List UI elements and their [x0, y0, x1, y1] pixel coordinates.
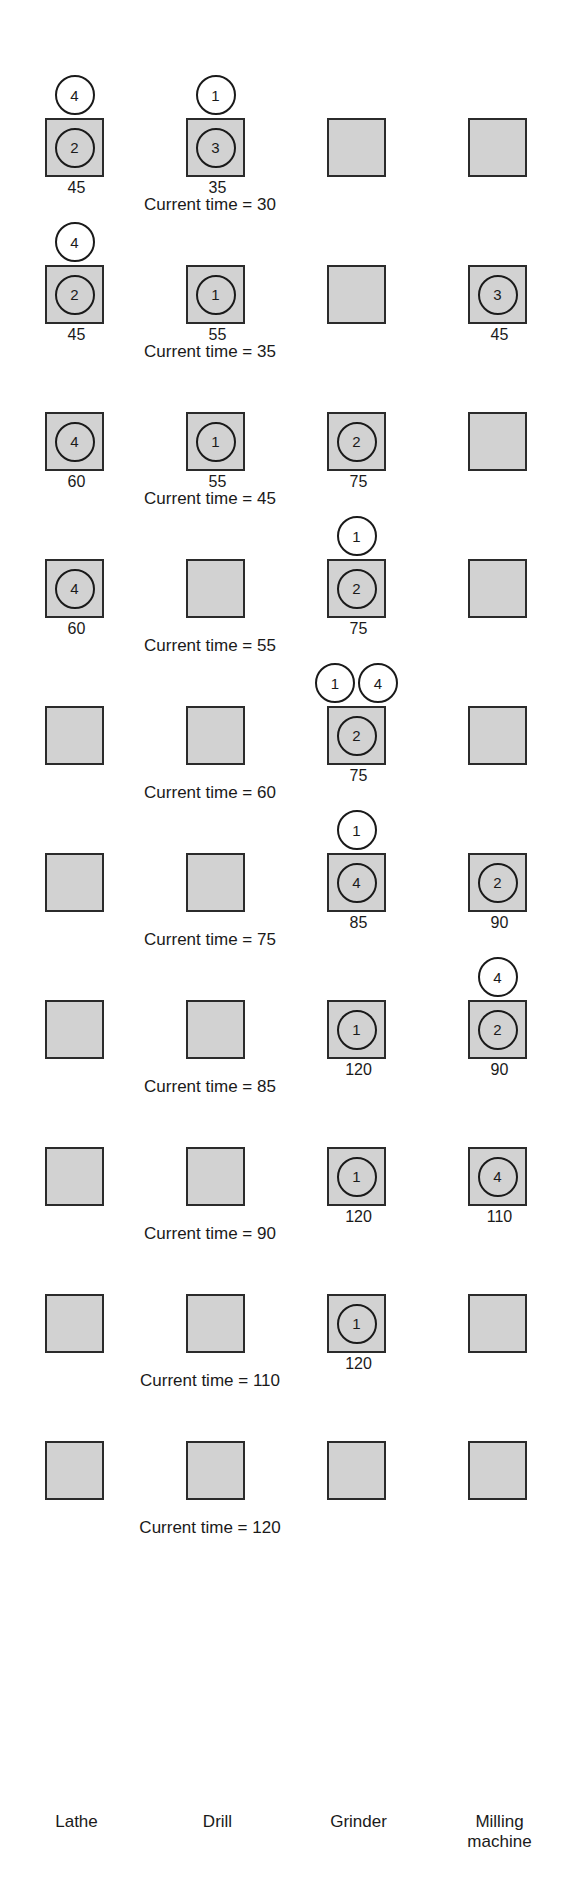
machine-square — [327, 265, 386, 324]
job-in-machine-token: 2 — [55, 128, 95, 168]
job-in-machine-token: 2 — [337, 716, 377, 756]
job-finish-time: 55 — [147, 474, 288, 490]
job-in-machine-token: 1 — [337, 1157, 377, 1197]
job-finish-time: 55 — [147, 327, 288, 343]
machine-queue: 1 — [327, 809, 386, 851]
queued-job-token: 4 — [478, 957, 518, 997]
job-finish-time: 120 — [288, 1356, 429, 1372]
machine-queue: 14 — [312, 662, 401, 704]
machine-square: 1 — [186, 265, 245, 324]
queued-job-token: 1 — [196, 75, 236, 115]
machine-square — [186, 1441, 245, 1500]
machine-square — [186, 1294, 245, 1353]
scheduling-simulation-figure: 42451335Current time = 304245155345Curre… — [0, 0, 561, 1890]
job-in-machine-token: 4 — [55, 422, 95, 462]
current-time-caption: Current time = 45 — [0, 490, 420, 507]
machine-name-label: Milling machine — [429, 1812, 561, 1852]
snapshot: 11204290 — [0, 972, 561, 1072]
job-in-machine-token: 4 — [478, 1157, 518, 1197]
current-time-caption: Current time = 120 — [0, 1519, 420, 1536]
machine-cell — [429, 384, 561, 484]
machine-square: 3 — [468, 265, 527, 324]
machine-square: 3 — [186, 118, 245, 177]
machine-cell — [429, 90, 561, 190]
machine-cell — [288, 237, 429, 337]
machine-square: 4 — [45, 412, 104, 471]
queued-job-token: 4 — [55, 222, 95, 262]
machine-square — [468, 1294, 527, 1353]
machine-square — [45, 1294, 104, 1353]
job-in-machine-token: 1 — [337, 1010, 377, 1050]
machine-square: 2 — [327, 706, 386, 765]
machine-cell: 4290 — [429, 972, 561, 1072]
machine-column-labels: LatheDrillGrinderMilling machine — [0, 1812, 561, 1872]
machine-square: 2 — [468, 1000, 527, 1059]
machine-cell — [6, 1119, 147, 1219]
job-finish-time: 45 — [6, 180, 147, 196]
machine-queue: 4 — [468, 956, 527, 998]
machine-square: 2 — [327, 412, 386, 471]
machine-cell — [429, 1266, 561, 1366]
machine-square — [186, 1147, 245, 1206]
current-time-caption: Current time = 75 — [0, 931, 420, 948]
job-in-machine-token: 3 — [478, 275, 518, 315]
job-in-machine-token: 1 — [337, 1304, 377, 1344]
job-finish-time: 120 — [288, 1062, 429, 1078]
machine-cell: 1120 — [288, 972, 429, 1072]
current-time-caption: Current time = 30 — [0, 196, 420, 213]
job-in-machine-token: 1 — [196, 275, 236, 315]
machine-name-label: Drill — [147, 1812, 288, 1832]
machine-cell: 460 — [6, 384, 147, 484]
job-finish-time: 90 — [429, 915, 561, 931]
machine-square: 1 — [186, 412, 245, 471]
machine-square: 2 — [327, 559, 386, 618]
machine-queue: 4 — [45, 74, 104, 116]
machine-cell: 1275 — [288, 531, 429, 631]
job-in-machine-token: 2 — [337, 422, 377, 462]
machine-square — [45, 706, 104, 765]
queued-job-token: 4 — [358, 663, 398, 703]
job-in-machine-token: 2 — [478, 1010, 518, 1050]
machine-cell — [429, 531, 561, 631]
job-finish-time: 120 — [288, 1209, 429, 1225]
machine-square: 4 — [45, 559, 104, 618]
current-time-caption: Current time = 35 — [0, 343, 420, 360]
machine-square: 2 — [45, 118, 104, 177]
job-finish-time: 90 — [429, 1062, 561, 1078]
machine-cell — [6, 678, 147, 778]
job-finish-time: 60 — [6, 621, 147, 637]
machine-cell — [288, 1413, 429, 1513]
machine-cell: 155 — [147, 384, 288, 484]
job-in-machine-token: 4 — [337, 863, 377, 903]
machine-square — [468, 706, 527, 765]
machine-cell: 275 — [288, 384, 429, 484]
job-finish-time: 35 — [147, 180, 288, 196]
machine-square — [186, 706, 245, 765]
machine-cell — [147, 1266, 288, 1366]
machine-square — [327, 1441, 386, 1500]
machine-cell: 1120 — [288, 1119, 429, 1219]
machine-square: 1 — [327, 1000, 386, 1059]
machine-square: 1 — [327, 1294, 386, 1353]
job-finish-time: 75 — [288, 768, 429, 784]
machine-cell — [147, 1119, 288, 1219]
machine-square — [45, 1000, 104, 1059]
job-finish-time: 45 — [429, 327, 561, 343]
snapshot — [0, 1413, 561, 1513]
machine-name-label: Lathe — [6, 1812, 147, 1832]
machine-square — [186, 1000, 245, 1059]
machine-queue: 1 — [186, 74, 245, 116]
machine-square — [468, 1441, 527, 1500]
current-time-caption: Current time = 110 — [0, 1372, 420, 1389]
queued-job-token: 1 — [337, 516, 377, 556]
machine-cell — [147, 678, 288, 778]
machine-cell — [288, 90, 429, 190]
job-in-machine-token: 2 — [55, 275, 95, 315]
machine-cell: 4245 — [6, 237, 147, 337]
machine-cell — [6, 1413, 147, 1513]
snapshot: 460155275 — [0, 384, 561, 484]
job-finish-time: 110 — [429, 1209, 561, 1225]
snapshot: 11204110 — [0, 1119, 561, 1219]
machine-cell: 4110 — [429, 1119, 561, 1219]
machine-cell: 1335 — [147, 90, 288, 190]
